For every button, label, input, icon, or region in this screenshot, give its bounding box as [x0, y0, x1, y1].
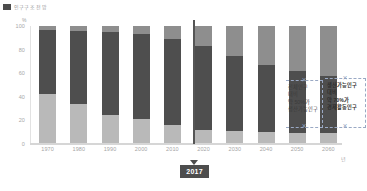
- x-tick-1990: 1990: [104, 146, 117, 152]
- bar-2030[interactable]: [226, 26, 243, 144]
- y-tick-0: 0: [22, 141, 25, 147]
- x-tick-2060: 2060: [322, 146, 335, 152]
- y-tick-40: 40: [19, 94, 25, 100]
- y-tick-100: 100: [16, 23, 25, 29]
- chart-root: 인구구조 전망 % 0 20 40 60 80 100 2017 1970198…: [0, 0, 367, 191]
- annotation-1-line-2: 대비: [288, 91, 318, 98]
- bar-1980[interactable]: [70, 26, 87, 144]
- x-axis-labels: 1970198019902000201020202030204020502060: [30, 146, 342, 158]
- x-axis-unit: 년: [341, 155, 346, 162]
- bar-2020[interactable]: [195, 26, 212, 144]
- annotation-brace-x-bottom-2: ✕: [342, 123, 347, 129]
- y-tick-60: 60: [19, 70, 25, 76]
- bar-segment-elderly-2000: [133, 26, 150, 34]
- bar-segment-working-2030: [226, 56, 243, 132]
- y-tick-20: 20: [19, 117, 25, 123]
- bar-segment-elderly-2010: [164, 26, 181, 39]
- marker-label-2017[interactable]: 2017: [180, 165, 209, 178]
- x-tick-2000: 2000: [135, 146, 148, 152]
- bar-2010[interactable]: [164, 26, 181, 144]
- annotation-brace-x-top-2: ✕: [342, 75, 347, 81]
- annotation-2-line-2: 대비: [327, 89, 357, 96]
- annotation-brace-x-top-1: ✕: [301, 77, 306, 83]
- legend-swatch-icon: [3, 4, 11, 10]
- x-tick-2010: 2010: [166, 146, 179, 152]
- bar-segment-working-1990: [102, 32, 119, 115]
- bar-segment-youth-1990: [102, 115, 119, 145]
- x-tick-1980: 1980: [72, 146, 85, 152]
- bar-segment-working-2010: [164, 39, 181, 125]
- bar-segment-working-2000: [133, 34, 150, 119]
- chart-legend: 인구구조 전망: [3, 2, 47, 11]
- annotation-2-line-4: 경제활동인구: [327, 104, 357, 111]
- bar-segment-youth-2010: [164, 125, 181, 144]
- x-tick-2020: 2020: [197, 146, 210, 152]
- annotation-economically-active-share: 생산가능인구 대비 약 70%가 경제활동인구: [327, 82, 357, 112]
- annotation-1-line-4: 생산가능인구: [288, 106, 318, 113]
- baseline-shadow: [30, 143, 342, 145]
- bar-segment-elderly-2050: [289, 26, 306, 71]
- bar-segment-youth-2020: [195, 130, 212, 144]
- x-tick-2030: 2030: [228, 146, 241, 152]
- legend-label: 인구구조 전망: [14, 3, 47, 10]
- annotation-working-age-share: 전체인구 대비 약 50%가 생산가능인구: [288, 84, 318, 114]
- bar-segment-youth-1980: [70, 104, 87, 144]
- bar-segment-working-2040: [258, 65, 275, 132]
- bar-segment-elderly-2040: [258, 26, 275, 65]
- bar-2040[interactable]: [258, 26, 275, 144]
- bar-2000[interactable]: [133, 26, 150, 144]
- bar-segment-working-1970: [39, 30, 56, 95]
- bar-segment-elderly-2060: [320, 26, 337, 76]
- annotation-brace-x-bottom-1: ✕: [301, 123, 306, 129]
- x-tick-2050: 2050: [291, 146, 304, 152]
- bar-segment-working-1980: [70, 31, 87, 104]
- marker-line-2017: [193, 20, 195, 144]
- y-tick-80: 80: [19, 47, 25, 53]
- bar-segment-elderly-2020: [195, 26, 212, 46]
- bar-segment-youth-2000: [133, 119, 150, 144]
- bar-segment-working-2020: [195, 46, 212, 130]
- bar-segment-elderly-2030: [226, 26, 243, 56]
- x-tick-1970: 1970: [41, 146, 54, 152]
- bar-1990[interactable]: [102, 26, 119, 144]
- x-tick-2040: 2040: [260, 146, 273, 152]
- y-axis-labels: 0 20 40 60 80 100: [0, 26, 28, 144]
- bar-segment-youth-1970: [39, 94, 56, 144]
- bar-1970[interactable]: [39, 26, 56, 144]
